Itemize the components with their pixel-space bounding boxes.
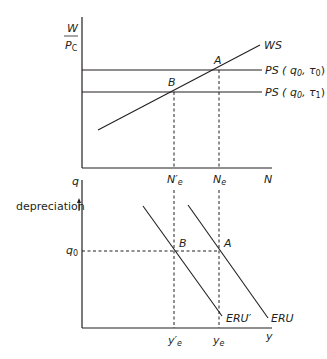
- ws-label: WS: [264, 39, 282, 52]
- tick-ne: Ne: [213, 173, 226, 187]
- eru-prime-label: ERU′: [226, 312, 252, 325]
- top-panel: W PC WS PS ( q0, τ0) PS ( q0, τ1) A B N′…: [64, 17, 325, 187]
- y-axis-label-w: W: [67, 22, 79, 35]
- eru-prime-curve: [143, 206, 222, 316]
- eru-curve: [188, 205, 268, 318]
- eru-label: ERU: [271, 312, 294, 325]
- point-b-top: B: [168, 76, 176, 89]
- top-x-axis-label: N: [264, 173, 272, 186]
- tick-ne-prime: N′e: [167, 173, 183, 187]
- point-a-top: A: [213, 54, 222, 67]
- ps-tau0-label: PS ( q0, τ0): [265, 64, 325, 78]
- depreciation-label: depreciation: [16, 200, 85, 213]
- y-axis-label-pc: PC: [65, 39, 78, 53]
- bottom-panel: q depreciation q0 ERU′ ERU B A y′e ye y: [16, 175, 294, 348]
- q0-label: q0: [66, 244, 78, 258]
- bottom-y-axis-label: q: [72, 175, 79, 188]
- tick-ye-prime: y′e: [167, 334, 182, 348]
- bottom-x-axis-label: y: [265, 330, 273, 343]
- ws-curve: [98, 45, 260, 130]
- tick-ye: ye: [212, 334, 225, 348]
- ps-tau1-label: PS ( q0, τ1): [265, 86, 325, 100]
- labour-market-eru-diagram: W PC WS PS ( q0, τ0) PS ( q0, τ1) A B N′…: [0, 0, 327, 359]
- point-b-bottom: B: [179, 237, 187, 250]
- point-a-bottom: A: [223, 237, 232, 250]
